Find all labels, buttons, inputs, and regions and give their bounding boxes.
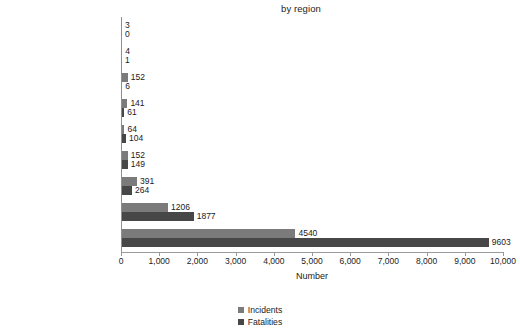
x-axis-tick-label: 0 (119, 256, 124, 266)
x-axis-tick-label: 7,000 (378, 256, 399, 266)
bar-fatalities[interactable] (122, 186, 132, 195)
x-axis-tick-label: 10,000 (490, 256, 516, 266)
bar-incidents[interactable] (122, 229, 295, 238)
x-axis-tick-label: 1,000 (149, 256, 170, 266)
bar-value-label: 152 (128, 73, 145, 82)
x-axis-tick-label: 6,000 (340, 256, 361, 266)
chart-container: by region East & Central Asia30North Ame… (0, 0, 520, 331)
x-axis-tick-label: 9,000 (454, 256, 475, 266)
bar-value-label: 104 (126, 134, 143, 143)
chart-row: Middle East / Persian Gulf45409603 (121, 225, 503, 251)
chart-row: Africa64104 (121, 121, 503, 147)
x-axis-tick-label: 8,000 (416, 256, 437, 266)
bar-value-label: 1 (122, 56, 130, 65)
bar-value-label: 9603 (489, 238, 511, 247)
chart-row: East & Central Asia30 (121, 17, 503, 43)
x-axis-tick-label: 4,000 (263, 256, 284, 266)
bar-value-label: 0 (122, 30, 130, 39)
chart-row: Eastern Europe14161 (121, 95, 503, 121)
legend-swatch-icon (238, 319, 244, 325)
x-axis-tick-label: 3,000 (225, 256, 246, 266)
bar-value-label: 6 (122, 82, 130, 91)
bar-fatalities[interactable] (122, 238, 489, 247)
chart-row: Southeast Asia & Oceania391264 (121, 173, 503, 199)
legend-label: Incidents (248, 305, 282, 315)
chart-title: by region (0, 3, 520, 14)
legend-label: Fatalities (248, 317, 282, 327)
bar-fatalities[interactable] (122, 212, 194, 221)
chart-row: Western Europe1526 (121, 69, 503, 95)
x-axis-tick-label: 5,000 (301, 256, 322, 266)
legend-swatch-icon (238, 307, 244, 313)
bar-value-label: 4540 (295, 229, 317, 238)
chart-legend: IncidentsFatalities (0, 304, 520, 328)
chart-row: Latin America & Caribbean152149 (121, 147, 503, 173)
x-axis-label: Number (121, 271, 503, 281)
bar-incidents[interactable] (122, 203, 168, 212)
legend-item[interactable]: Fatalities (0, 316, 520, 328)
plot-area: East & Central Asia30North America41West… (121, 17, 503, 252)
chart-row: South Asia12061877 (121, 199, 503, 225)
bar-value-label: 149 (128, 160, 145, 169)
bar-value-label: 61 (124, 108, 136, 117)
bar-value-label: 1877 (194, 212, 216, 221)
x-axis-tick-label: 2,000 (187, 256, 208, 266)
legend-item[interactable]: Incidents (0, 304, 520, 316)
chart-row: North America41 (121, 43, 503, 69)
bar-value-label: 1206 (168, 203, 190, 212)
bar-value-label: 264 (132, 186, 149, 195)
